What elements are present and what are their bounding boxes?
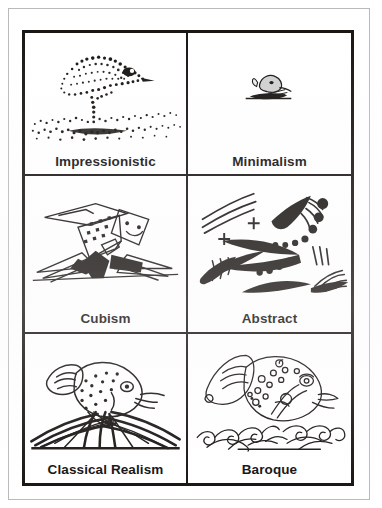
grid-cell-cubism[interactable]: Cubism <box>25 176 188 334</box>
grid-cell-minimalism[interactable]: Minimalism <box>188 33 351 176</box>
geometric-fish-illustration <box>25 176 186 306</box>
cell-caption: Cubism <box>25 306 186 332</box>
art-style-grid: Impressionistic <box>22 30 354 486</box>
realistic-fish-illustration <box>25 334 186 457</box>
tiny-fish-illustration <box>188 33 351 150</box>
grid-cell-abstract[interactable]: Abstract <box>188 176 351 334</box>
scanned-page: Impressionistic <box>0 0 382 508</box>
stippled-fish-illustration <box>25 33 186 150</box>
cell-caption: Classical Realism <box>25 457 186 483</box>
grid-cell-classical-realism[interactable]: Classical Realism <box>25 334 188 483</box>
cell-caption: Baroque <box>188 457 351 483</box>
grid-cell-impressionistic[interactable]: Impressionistic <box>25 33 188 176</box>
ornate-fish-illustration <box>188 334 351 457</box>
grid-cell-baroque[interactable]: Baroque <box>188 334 351 483</box>
cell-caption: Impressionistic <box>25 150 186 174</box>
cell-caption: Abstract <box>188 306 351 332</box>
cell-caption: Minimalism <box>188 150 351 174</box>
abstract-fish-illustration <box>188 176 351 306</box>
